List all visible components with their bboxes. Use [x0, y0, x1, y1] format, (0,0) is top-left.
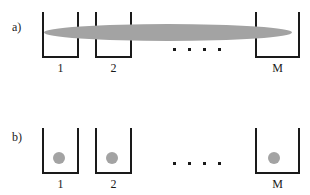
panel-a-well-1-label: 1: [42, 62, 79, 74]
ellipsis-dot: [173, 48, 176, 51]
ellipsis-dot: [203, 48, 206, 51]
panel-b-well-1-label: 1: [42, 178, 79, 190]
ellipsis-dot: [218, 48, 221, 51]
ellipsis-dot: [188, 162, 191, 165]
panel-b-ellipsis: [173, 162, 221, 165]
ellipsis-dot: [203, 162, 206, 165]
panel-b-well-1: [42, 128, 79, 174]
delocalized-condensate: [44, 24, 292, 41]
ellipsis-dot: [188, 48, 191, 51]
ellipsis-dot: [218, 162, 221, 165]
ellipsis-dot: [173, 162, 176, 165]
panel-b-atom-1: [53, 152, 65, 164]
panel-b-atom-m: [268, 152, 280, 164]
panel-a-well-m-label: M: [255, 62, 300, 74]
panel-b-well-m: [255, 128, 300, 174]
panel-a-ellipsis: [173, 48, 221, 51]
panel-b-atom-2: [106, 152, 118, 164]
panel-b-well-2: [95, 128, 132, 174]
panel-a-well-2-label: 2: [95, 62, 132, 74]
panel-b-label: b): [12, 131, 22, 143]
figure-canvas: a) 1 2 M b) 1 2 M: [0, 0, 310, 195]
panel-b-well-m-label: M: [255, 178, 300, 190]
panel-a-label: a): [12, 21, 21, 33]
panel-b-well-2-label: 2: [95, 178, 132, 190]
